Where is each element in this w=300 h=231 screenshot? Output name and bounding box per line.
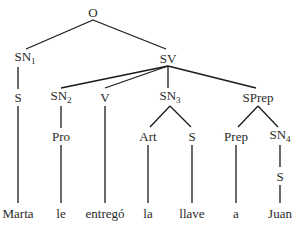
tree-edge	[168, 66, 256, 88]
node-label: Art	[139, 129, 156, 144]
tree-node-prep: Prep	[224, 130, 248, 143]
tree-edge	[258, 106, 278, 127]
tree-node-sn2: SN2	[50, 89, 71, 105]
tree-edge	[170, 106, 191, 127]
tree-node-sn4: SN4	[269, 128, 290, 144]
terminal-word: a	[233, 207, 239, 220]
node-label: entregó	[86, 206, 125, 221]
node-label: SPrep	[242, 90, 273, 105]
node-label: Pro	[52, 129, 70, 144]
node-label: Marta	[2, 206, 33, 221]
node-label: V	[100, 90, 109, 105]
terminal-word: Juan	[268, 207, 292, 220]
node-subscript: 3	[176, 95, 181, 105]
node-subscript: 4	[286, 134, 291, 144]
tree-node-art: Art	[139, 130, 156, 143]
node-label: llave	[179, 206, 204, 221]
tree-edge	[26, 20, 93, 49]
terminal-word: entregó	[86, 207, 125, 220]
syntax-tree-edges	[0, 0, 300, 231]
node-label: S	[188, 129, 195, 144]
tree-node-s1: S	[14, 91, 21, 104]
tree-edge	[93, 20, 166, 49]
node-label: SN	[269, 127, 286, 142]
node-label: SN	[50, 88, 67, 103]
tree-node-sprep: SPrep	[242, 91, 273, 104]
tree-node-s3: S	[276, 170, 283, 183]
node-label: Juan	[268, 206, 292, 221]
node-subscript: 1	[31, 56, 36, 66]
node-label: SV	[160, 51, 177, 66]
node-label: O	[88, 5, 97, 20]
tree-node-s2: S	[188, 130, 195, 143]
node-label: S	[276, 169, 283, 184]
node-subscript: 2	[67, 95, 72, 105]
tree-node-sv: SV	[160, 52, 177, 65]
tree-node-sn3: SN3	[159, 89, 180, 105]
tree-node-pro: Pro	[52, 130, 70, 143]
node-label: S	[14, 90, 21, 105]
node-label: a	[233, 206, 239, 221]
node-label: Prep	[224, 129, 248, 144]
terminal-word: llave	[179, 207, 204, 220]
terminal-word: le	[56, 207, 65, 220]
tree-node-sn1: SN1	[14, 50, 35, 66]
terminal-word: la	[143, 207, 152, 220]
tree-edge	[238, 106, 258, 127]
node-label: SN	[14, 49, 31, 64]
terminal-word: Marta	[2, 207, 33, 220]
node-label: la	[143, 206, 152, 221]
node-label: le	[56, 206, 65, 221]
tree-node-v: V	[100, 91, 109, 104]
tree-node-o: O	[88, 6, 97, 19]
tree-edge	[150, 106, 170, 127]
node-label: SN	[159, 88, 176, 103]
